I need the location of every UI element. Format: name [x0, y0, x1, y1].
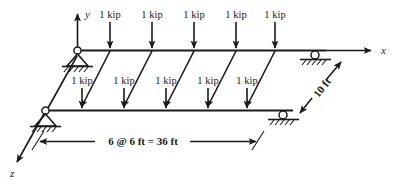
y-axis: y [78, 8, 91, 50]
span-extension-left [32, 131, 44, 150]
load-label-front-4: 1 kip [197, 75, 218, 86]
z-axis: z [9, 112, 45, 179]
x-axis: x [326, 44, 386, 56]
diagram-canvas: y x z 1 kip 1 kip 1 kip 1 kip 1 kip [0, 0, 398, 184]
support-rear-right-roller [300, 51, 331, 65]
hatching-rear-right [302, 60, 326, 65]
load-label-rear-2: 1 kip [141, 9, 162, 20]
depth-dimension-label: 10 ft [311, 75, 334, 99]
hatching-front-right [270, 120, 294, 125]
span-extension-right [252, 131, 264, 150]
span-dimension: 6 @ 6 ft = 36 ft [32, 131, 264, 150]
rear-load-labels: 1 kip 1 kip 1 kip 1 kip 1 kip [99, 9, 285, 20]
structural-frame-diagram: y x z 1 kip 1 kip 1 kip 1 kip 1 kip [0, 0, 398, 184]
z-axis-label: z [9, 167, 15, 179]
depth-dimension: 10 ft [300, 62, 341, 113]
y-axis-label: y [84, 8, 90, 20]
load-label-front-1: 1 kip [71, 75, 92, 86]
load-label-front-5: 1 kip [236, 75, 257, 86]
load-label-rear-5: 1 kip [264, 9, 285, 20]
load-label-front-3: 1 kip [155, 75, 176, 86]
support-front-right-roller [268, 111, 299, 125]
front-load-arrows [82, 88, 247, 108]
front-load-labels: 1 kip 1 kip 1 kip 1 kip 1 kip [71, 75, 257, 86]
load-label-rear-1: 1 kip [99, 9, 120, 20]
span-dimension-label: 6 @ 6 ft = 36 ft [108, 135, 178, 147]
load-label-rear-3: 1 kip [183, 9, 204, 20]
load-label-front-2: 1 kip [113, 75, 134, 86]
rear-load-arrows [110, 22, 275, 48]
x-axis-label: x [380, 44, 386, 56]
load-label-rear-4: 1 kip [225, 9, 246, 20]
